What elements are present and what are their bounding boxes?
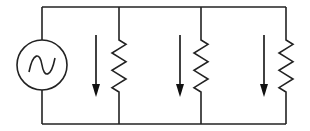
resistor-r2 (194, 7, 208, 124)
resistor-r1 (112, 7, 126, 124)
arrow-down-icon (176, 84, 184, 97)
branches (92, 7, 293, 124)
arrow-down-icon (260, 84, 268, 97)
branch-r1 (92, 7, 126, 124)
wires (42, 7, 286, 124)
resistor-r3 (279, 7, 293, 124)
circuit-diagram (0, 0, 310, 131)
branch-r2 (176, 7, 208, 124)
ac-source (17, 40, 67, 90)
branch-r3 (260, 7, 293, 124)
arrow-down-icon (92, 84, 100, 97)
sine-wave-icon (29, 56, 55, 74)
